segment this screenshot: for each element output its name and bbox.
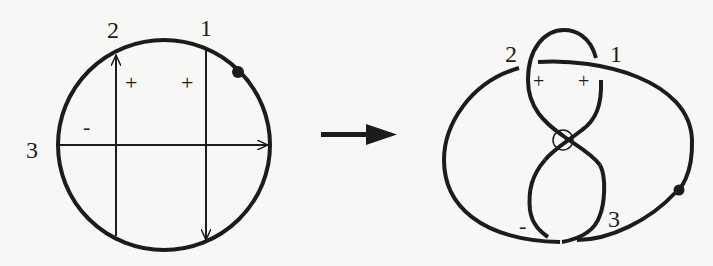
crossing-label-2: 2: [505, 41, 517, 67]
sign-2: +: [125, 70, 137, 95]
sign-crossing-2: +: [533, 70, 544, 92]
base-point-dot: [232, 66, 244, 78]
knot-diagram: [444, 30, 692, 242]
chord-label-3: 3: [26, 137, 38, 163]
chord-label-1: 1: [200, 15, 212, 41]
chord-diagram: 2 1 3 + + -: [26, 15, 270, 250]
outer-strand-left: [444, 68, 560, 242]
upper-loop-right: [545, 80, 601, 160]
chord-label-2: 2: [107, 17, 119, 43]
lower-loop: [530, 160, 548, 237]
sign-3: -: [83, 114, 90, 139]
sign-1: +: [181, 70, 193, 95]
outer-strand-right: [538, 62, 692, 193]
sign-crossing-1: +: [578, 70, 589, 92]
crossing-label-3: 3: [608, 206, 620, 232]
crossing-label-1: 1: [610, 41, 622, 67]
base-point-dot: [674, 185, 685, 196]
outer-strand-bottom-right: [577, 193, 675, 240]
transform-arrow: [321, 124, 397, 145]
sign-crossing-3: -: [519, 213, 526, 238]
lower-loop-right: [562, 165, 604, 242]
diagram-canvas: 2 1 3 + + - 2 1 3 + + -: [0, 0, 713, 266]
